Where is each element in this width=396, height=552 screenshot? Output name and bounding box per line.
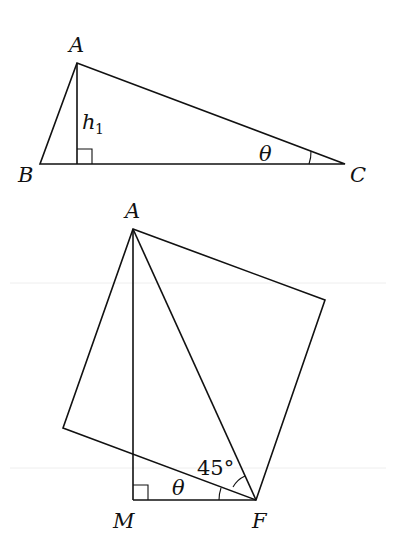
label-theta-top: θ	[259, 142, 272, 166]
segment-af	[133, 229, 256, 500]
label-m: M	[112, 509, 135, 533]
label-a-top: A	[67, 33, 84, 57]
label-45-degrees: 45°	[197, 456, 234, 480]
label-b: B	[17, 163, 33, 187]
angle-theta-arc	[219, 488, 221, 500]
right-angle-mark	[77, 149, 92, 164]
label-a-bottom: A	[123, 199, 140, 223]
label-h-subscript: 1	[95, 121, 104, 137]
label-theta-bottom: θ	[172, 476, 185, 500]
square-figure	[63, 229, 325, 500]
angle-45-arc	[233, 476, 245, 487]
geometry-figure: A B C h 1 θ A M F θ 45°	[0, 0, 396, 552]
label-c: C	[350, 163, 366, 187]
angle-theta-arc	[309, 151, 311, 164]
right-angle-mark	[133, 485, 148, 500]
label-f: F	[251, 509, 268, 533]
label-h: h	[82, 110, 96, 134]
